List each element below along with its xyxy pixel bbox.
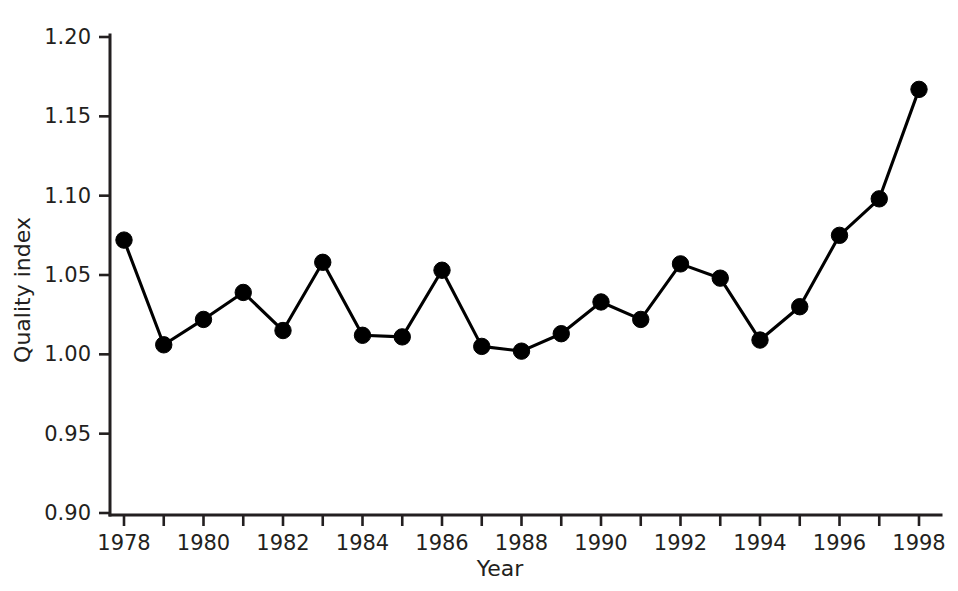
x-tick-label: 1996 [813, 531, 866, 555]
data-point-marker [275, 322, 291, 338]
x-tick-label: 1980 [177, 531, 230, 555]
data-point-marker [911, 81, 927, 97]
data-point-marker [394, 329, 410, 345]
line-chart: 1.201.151.101.051.000.950.90 19781980198… [0, 0, 958, 591]
y-tick-label: 1.20 [44, 25, 91, 49]
data-point-marker [235, 284, 251, 300]
y-axis-tick-labels: 1.201.151.101.051.000.950.90 [44, 25, 91, 525]
data-point-marker [871, 191, 887, 207]
x-tick-label: 1988 [495, 531, 548, 555]
x-tick-label: 1984 [336, 531, 389, 555]
y-tick-label: 0.90 [44, 501, 91, 525]
y-tick-label: 0.95 [44, 422, 91, 446]
data-point-marker [513, 343, 529, 359]
data-point-marker [752, 332, 768, 348]
data-point-marker [831, 227, 847, 243]
data-point-marker [792, 299, 808, 315]
x-tick-label: 1978 [97, 531, 150, 555]
x-tick-label: 1986 [415, 531, 468, 555]
data-point-marker [116, 232, 132, 248]
y-tick-label: 1.00 [44, 342, 91, 366]
x-axis-title: Year [476, 556, 525, 581]
data-point-marker [593, 294, 609, 310]
y-axis-title: Quality index [10, 217, 35, 363]
data-point-marker [195, 311, 211, 327]
y-tick-label: 1.10 [44, 184, 91, 208]
y-axis-ticks [99, 37, 110, 513]
x-tick-label: 1994 [733, 531, 786, 555]
data-point-marker [315, 254, 331, 270]
data-point-markers [116, 81, 927, 359]
x-axis-tick-labels: 1978198019821984198619881990199219941996… [97, 531, 945, 555]
data-point-marker [474, 338, 490, 354]
x-tick-label: 1982 [256, 531, 309, 555]
x-tick-label: 1992 [654, 531, 707, 555]
data-point-marker [434, 262, 450, 278]
data-point-marker [553, 326, 569, 342]
x-tick-label: 1990 [574, 531, 627, 555]
x-axis-ticks [124, 515, 919, 526]
data-point-marker [354, 327, 370, 343]
data-point-marker [672, 256, 688, 272]
y-tick-label: 1.15 [44, 104, 91, 128]
y-tick-label: 1.05 [44, 263, 91, 287]
x-tick-label: 1998 [892, 531, 945, 555]
data-point-marker [633, 311, 649, 327]
data-point-marker [156, 337, 172, 353]
chart-container: 1.201.151.101.051.000.950.90 19781980198… [0, 0, 958, 591]
data-point-marker [712, 270, 728, 286]
